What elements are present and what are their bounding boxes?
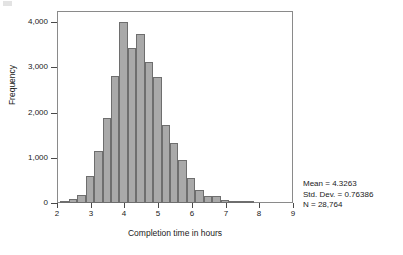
x-axis-tick-label: 6 <box>182 209 202 218</box>
histogram-bar <box>94 151 102 203</box>
y-axis-tick-label: 3,000 <box>28 63 48 71</box>
x-axis-tick-label: 8 <box>249 209 269 218</box>
histogram-bar <box>103 118 111 203</box>
histogram-bar <box>111 76 119 203</box>
x-axis-tick <box>259 203 260 208</box>
scan-artifact <box>3 1 12 6</box>
y-axis-tick <box>51 22 57 23</box>
y-axis-tick-label: 1,000 <box>28 154 48 162</box>
x-axis-tick <box>57 203 58 208</box>
histogram-bar <box>237 201 245 203</box>
x-axis-tick <box>158 203 159 208</box>
stat-stddev: Std. Dev. = 0.76386 <box>303 190 373 201</box>
histogram-bar <box>178 160 186 203</box>
histogram-bar <box>145 62 153 203</box>
x-axis-tick-label: 7 <box>216 209 236 218</box>
x-axis-tick <box>226 203 227 208</box>
x-axis-tick <box>91 203 92 208</box>
y-axis-tick <box>51 67 57 68</box>
x-axis-tick-label: 4 <box>114 209 134 218</box>
histogram-bar <box>221 200 229 203</box>
histogram-bar <box>170 143 178 203</box>
stat-mean: Mean = 4.3263 <box>303 179 373 190</box>
y-axis-tick-label: 4,000 <box>28 18 48 26</box>
x-axis-tick-label: 9 <box>283 209 303 218</box>
statistics-annotation: Mean = 4.3263 Std. Dev. = 0.76386 N = 28… <box>303 179 373 211</box>
stat-n: N = 28,764 <box>303 200 373 211</box>
histogram-bar <box>153 77 161 203</box>
x-axis-tick-label: 3 <box>81 209 101 218</box>
y-axis-title: Frequency <box>7 40 17 130</box>
x-axis-tick <box>192 203 193 208</box>
histogram-bar <box>212 196 220 203</box>
histogram-bar <box>162 125 170 203</box>
histogram-bar <box>187 178 195 203</box>
y-axis-tick-label: 0 <box>44 199 48 207</box>
y-axis-tick-label: 2,000 <box>28 109 48 117</box>
plot-area <box>57 11 293 203</box>
histogram-bar <box>136 34 144 203</box>
histogram-bar <box>229 201 237 203</box>
histogram-bar <box>77 195 85 203</box>
histogram-bar <box>128 48 136 203</box>
histogram-bar <box>60 201 68 203</box>
x-axis-title: Completion time in hours <box>57 228 293 238</box>
histogram-bar <box>119 22 127 203</box>
x-axis-tick-label: 5 <box>148 209 168 218</box>
histogram-bar <box>246 201 254 203</box>
y-axis-tick <box>51 158 57 159</box>
histogram-bar <box>204 196 212 203</box>
histogram-bar <box>69 199 77 203</box>
histogram-bar <box>195 190 203 203</box>
x-axis-tick-label: 2 <box>47 209 67 218</box>
x-axis-tick <box>293 203 294 208</box>
histogram-figure: 01,0002,0003,0004,000 23456789 Frequency… <box>0 0 403 255</box>
histogram-bar <box>86 176 94 203</box>
y-axis-tick <box>51 113 57 114</box>
x-axis-tick <box>124 203 125 208</box>
